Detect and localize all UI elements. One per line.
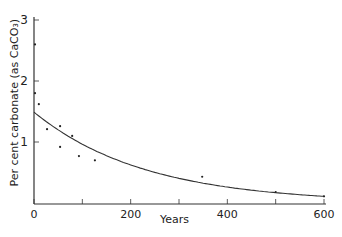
- data-point: [275, 191, 277, 193]
- data-point: [46, 128, 48, 130]
- y-tick-label: 3: [20, 13, 28, 27]
- x-tick-label: 0: [31, 208, 38, 221]
- data-point: [34, 92, 36, 94]
- tick-marks: [34, 20, 324, 204]
- x-axis-label: Years: [160, 213, 189, 226]
- x-tick-label: 400: [217, 208, 238, 221]
- data-point: [323, 195, 325, 197]
- data-point: [71, 135, 73, 137]
- data-point: [38, 103, 40, 105]
- y-axis-label: Per cent carbonate (as CaCO₃): [8, 27, 21, 187]
- data-point: [78, 155, 80, 157]
- x-tick-label: 600: [314, 208, 335, 221]
- axes: [34, 17, 326, 204]
- x-tick-label: 200: [120, 208, 141, 221]
- fitted-curve: [34, 112, 324, 196]
- y-tick-label: 2: [20, 74, 28, 88]
- chart-canvas: 0200400600123: [0, 0, 342, 237]
- data-point: [34, 43, 36, 45]
- y-tick-label: 1: [20, 135, 28, 149]
- tick-labels: 0200400600123: [20, 13, 334, 221]
- data-point: [59, 146, 61, 148]
- data-point: [94, 159, 96, 161]
- data-points: [34, 43, 325, 197]
- data-point: [201, 176, 203, 178]
- data-point: [59, 125, 61, 127]
